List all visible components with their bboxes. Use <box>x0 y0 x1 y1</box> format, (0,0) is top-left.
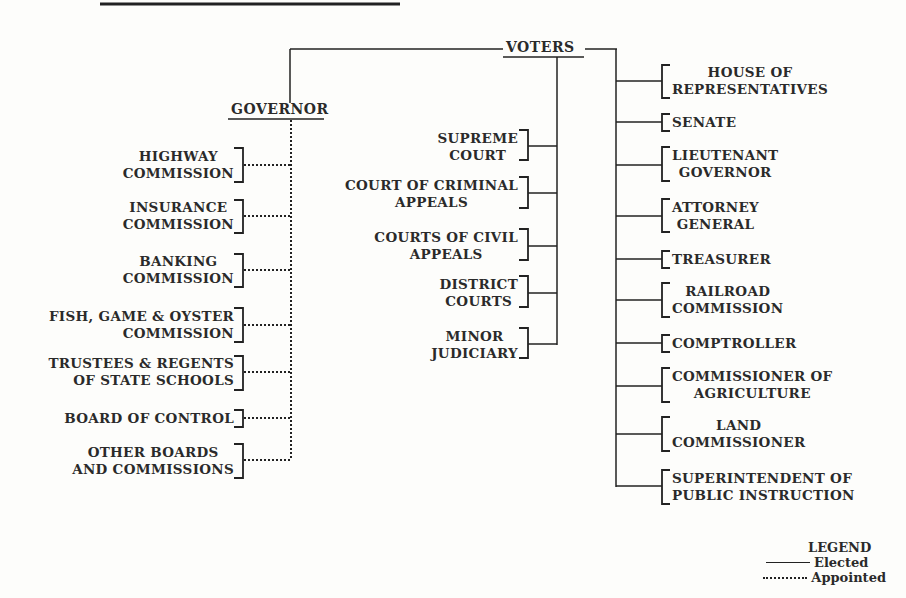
legend-elected: Elected <box>814 555 886 570</box>
governor-appointee-insurance: INSURANCECOMMISSION <box>123 199 234 233</box>
office-lieutenant-governor: LIEUTENANTGOVERNOR <box>672 147 778 181</box>
governor-appointee-trustees: TRUSTEES & REGENTSOF STATE SCHOOLS <box>48 355 234 389</box>
office-land-commissioner: LANDCOMMISSIONER <box>672 417 805 451</box>
office-senate: SENATE <box>672 114 736 131</box>
judiciary-criminal-appeals: COURT OF CRIMINALAPPEALS <box>345 177 518 211</box>
office-agriculture: COMMISSIONER OFAGRICULTURE <box>672 368 832 402</box>
legend: LEGEND Elected Appointed <box>763 540 886 585</box>
judiciary-minor: MINORJUDICIARY <box>431 328 518 362</box>
office-treasurer: TREASURER <box>672 251 771 268</box>
judiciary-district-courts: DISTRICTCOURTS <box>439 276 518 310</box>
office-attorney-general: ATTORNEYGENERAL <box>672 199 759 233</box>
governor-appointee-other-boards: OTHER BOARDSAND COMMISSIONS <box>72 444 234 478</box>
legend-title: LEGEND <box>808 540 871 555</box>
office-house: HOUSE OFREPRESENTATIVES <box>672 64 828 98</box>
voters-node: VOTERS <box>506 39 575 55</box>
governor-appointee-banking: BANKINGCOMMISSION <box>123 253 234 287</box>
judiciary-supreme-court: SUPREMECOURT <box>437 130 518 164</box>
legend-appointed: Appointed <box>811 570 886 585</box>
governor-appointee-board-of-control: BOARD OF CONTROL <box>64 410 234 427</box>
governor-node: GOVERNOR <box>231 101 329 117</box>
dotted-line-swatch-icon <box>763 577 807 579</box>
governor-appointee-fish-game: FISH, GAME & OYSTERCOMMISSION <box>49 308 234 342</box>
office-superintendent: SUPERINTENDENT OFPUBLIC INSTRUCTION <box>672 470 855 504</box>
judiciary-civil-appeals: COURTS OF CIVILAPPEALS <box>374 229 518 263</box>
office-railroad-commission: RAILROADCOMMISSION <box>672 283 783 317</box>
solid-line-swatch-icon <box>766 562 810 563</box>
office-comptroller: COMPTROLLER <box>672 335 796 352</box>
governor-appointee-highway: HIGHWAYCOMMISSION <box>123 148 234 182</box>
